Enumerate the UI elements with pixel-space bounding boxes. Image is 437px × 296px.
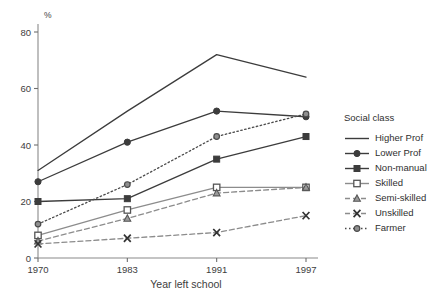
data-point-marker — [354, 166, 360, 172]
x-tick-label: 1970 — [27, 264, 48, 275]
data-point-marker — [35, 179, 41, 185]
data-point-marker — [125, 182, 131, 188]
data-point-marker — [35, 221, 41, 227]
x-tick-label: 1991 — [206, 264, 227, 275]
legend-key-icon — [344, 131, 370, 144]
legend-key-icon — [344, 176, 370, 189]
legend-item-higher-prof[interactable]: Higher Prof — [344, 130, 437, 145]
y-tick-label: 40 — [20, 140, 31, 151]
legend-item-label: Lower Prof — [375, 146, 421, 159]
legend-item-farmer[interactable]: Farmer — [344, 220, 437, 235]
y-tick-label: 20 — [20, 196, 31, 207]
legend-title: Social class — [344, 112, 437, 123]
series-line — [38, 187, 306, 241]
legend-key-icon — [344, 206, 370, 219]
y-tick-label: 0 — [26, 253, 31, 264]
legend-key-icon — [344, 161, 370, 174]
data-point-marker — [124, 139, 130, 145]
data-point-marker — [354, 150, 360, 156]
series-skilled — [35, 184, 309, 238]
legend-key-icon — [344, 191, 370, 204]
series-line — [38, 187, 306, 235]
data-point-marker — [214, 134, 220, 140]
legend-item-label: Semi-skilled — [375, 191, 426, 204]
line-chart-svg: 020406080 1970198319911997 % Year left s… — [0, 0, 320, 296]
data-point-marker — [303, 134, 309, 140]
legend-item-label: Higher Prof — [375, 131, 423, 144]
series-line — [38, 137, 306, 202]
data-point-marker — [214, 108, 220, 114]
legend-rows: Higher ProfLower ProfNon-manualSkilledSe… — [344, 130, 437, 235]
legend-item-label: Farmer — [375, 221, 406, 234]
x-axis-ticks: 1970198319911997 — [27, 258, 316, 275]
series-higher-prof — [38, 55, 306, 171]
legend-item-semi-skilled[interactable]: Semi-skilled — [344, 190, 437, 205]
series-line — [38, 55, 306, 171]
data-point-marker — [354, 226, 360, 232]
data-point-marker — [354, 180, 360, 186]
legend-item-non-manual[interactable]: Non-manual — [344, 160, 437, 175]
data-point-marker — [124, 207, 130, 213]
series-unskilled — [35, 212, 310, 247]
x-tick-label: 1983 — [117, 264, 138, 275]
data-point-marker — [124, 215, 131, 221]
chart-root: 020406080 1970198319911997 % Year left s… — [0, 0, 437, 296]
legend-key-icon — [344, 221, 370, 234]
y-axis-unit-label: % — [44, 10, 52, 20]
series-farmer — [35, 111, 309, 227]
series-non-manual — [35, 134, 309, 205]
legend-key-icon — [344, 146, 370, 159]
series-layer — [35, 55, 310, 248]
series-semi-skilled — [35, 184, 310, 244]
data-point-marker — [35, 199, 41, 205]
legend-item-unskilled[interactable]: Unskilled — [344, 205, 437, 220]
x-tick-label: 1997 — [295, 264, 316, 275]
x-axis-title: Year left school — [150, 278, 221, 290]
series-line — [38, 114, 306, 224]
data-point-marker — [214, 156, 220, 162]
legend-item-skilled[interactable]: Skilled — [344, 175, 437, 190]
legend-item-label: Non-manual — [375, 161, 427, 174]
legend-item-label: Unskilled — [375, 206, 414, 219]
data-point-marker — [303, 111, 309, 117]
plot-area: 020406080 1970198319911997 % Year left s… — [0, 0, 320, 296]
series-line — [38, 216, 306, 244]
legend-item-lower-prof[interactable]: Lower Prof — [344, 145, 437, 160]
data-point-marker — [124, 196, 130, 202]
chart-legend: Social class Higher ProfLower ProfNon-ma… — [344, 112, 437, 235]
y-axis-ticks: 020406080 — [20, 27, 38, 264]
y-tick-label: 80 — [20, 27, 31, 38]
y-tick-label: 60 — [20, 83, 31, 94]
legend-item-label: Skilled — [375, 176, 403, 189]
